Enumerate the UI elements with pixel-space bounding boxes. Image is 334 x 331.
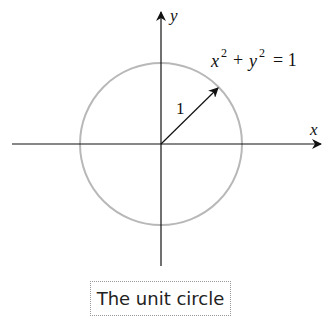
svg-text:2: 2 <box>221 46 227 60</box>
y-axis-label: y <box>168 6 178 25</box>
equation-label: x 2 + y 2 = 1 <box>210 46 297 71</box>
caption-box: The unit circle <box>90 281 231 316</box>
svg-text:= 1: = 1 <box>273 50 297 70</box>
svg-text:2: 2 <box>259 46 265 60</box>
radius-arrow <box>161 88 218 144</box>
svg-text:x: x <box>210 51 219 71</box>
svg-text:y: y <box>247 51 257 71</box>
x-axis-label: x <box>309 120 318 139</box>
radius-label: 1 <box>176 99 185 118</box>
svg-text:+: + <box>233 50 243 70</box>
